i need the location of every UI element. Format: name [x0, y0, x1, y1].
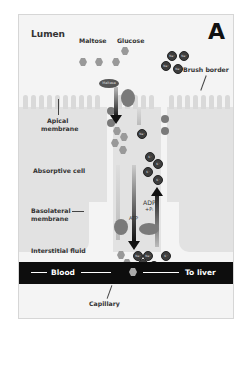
k-ion: K⁺ — [161, 251, 171, 261]
panel-letter: A — [208, 19, 225, 44]
basolateral-membrane-label-1: Basolateral — [31, 207, 71, 214]
tight-junction-protein — [161, 127, 169, 135]
blood-vessel-bar: Blood To liver — [19, 262, 233, 284]
absorptive-cell-right — [167, 107, 233, 202]
glut2-transporter — [114, 219, 128, 235]
glucose-uptake-arrowhead — [110, 115, 122, 124]
pi-label: +Pᵢ — [145, 206, 153, 212]
k-ion: K⁺ — [153, 175, 163, 185]
na-ion: Na⁺ — [161, 61, 171, 71]
k-ion: K⁺ — [143, 167, 153, 177]
diagram-panel: Lumen A Maltose Glucose Brush border Api… — [18, 14, 234, 319]
glucose-exit-arrowhead — [128, 241, 140, 250]
na-k-pump — [139, 223, 159, 235]
maltose-label: Maltose — [79, 37, 107, 44]
blood-label: Blood — [51, 268, 75, 277]
absorptive-cell-label: Absorptive cell — [33, 167, 85, 174]
absorptive-cell-right-lower — [179, 202, 233, 252]
atp-label: ATP — [129, 215, 138, 221]
na-ion: Na⁺ — [167, 51, 177, 61]
basolateral-membrane-label-2: membrane — [31, 215, 68, 222]
na-uptake-arrow — [137, 107, 141, 125]
interstitial-fluid-label: Interstitial fluid — [31, 247, 86, 254]
lumen-label: Lumen — [31, 29, 65, 39]
basolateral-membrane-pointer — [72, 211, 84, 212]
blood-arrow-right — [143, 272, 179, 273]
tight-junction-protein — [161, 115, 169, 123]
glucose-uptake-arrow — [114, 87, 118, 115]
glucose-label: Glucose — [117, 37, 144, 44]
glucose-molecule — [117, 251, 125, 259]
blood-arrow-left-2 — [81, 272, 111, 273]
apical-membrane-label-2: membrane — [41, 125, 78, 132]
capillary-label: Capillary — [89, 300, 120, 307]
glucose-exit-arrow — [132, 165, 136, 241]
adp-label: ADP — [143, 199, 156, 206]
glucose-molecule — [121, 47, 129, 55]
apical-membrane-label-1: Apical — [47, 117, 68, 124]
glucose-molecule — [112, 58, 120, 66]
sglt-transporter — [121, 89, 135, 107]
blood-arrow-left — [31, 272, 47, 273]
k-uptake-arrowhead — [151, 187, 163, 196]
k-ion: K⁺ — [153, 159, 163, 169]
capillary-pointer — [107, 285, 113, 298]
maltose-glucose-unit-1 — [79, 58, 87, 66]
na-ion: Na⁺ — [179, 51, 189, 61]
glucose-in-blood — [129, 268, 137, 276]
to-liver-label: To liver — [185, 268, 216, 277]
apical-membrane-pointer — [58, 99, 59, 115]
brush-border-pointer — [200, 75, 206, 90]
na-ion: Na⁺ — [173, 64, 183, 74]
na-ion: Na⁺ — [137, 129, 147, 139]
brush-border-label: Brush border — [183, 66, 229, 73]
maltose-glucose-unit-2 — [95, 58, 103, 66]
